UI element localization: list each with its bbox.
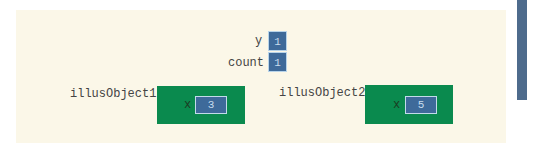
field-value-x-obj1: 3 <box>195 96 227 114</box>
field-label-x-obj1: x <box>184 98 191 112</box>
var-value-count: 1 <box>268 52 287 72</box>
field-value-x-obj2: 5 <box>405 96 437 114</box>
side-scroll-bar[interactable] <box>517 0 527 100</box>
var-value-y: 1 <box>268 31 287 51</box>
object-label-illusObject2: illusObject2 <box>279 86 365 100</box>
field-label-x-obj2: x <box>393 98 400 112</box>
var-label-y: y <box>255 34 262 48</box>
var-label-count: count <box>228 56 264 70</box>
object-label-illusObject1: illusObject1 <box>70 87 156 101</box>
